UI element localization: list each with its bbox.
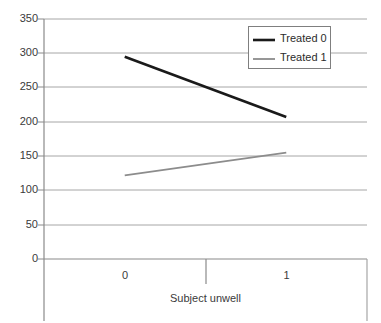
y-tick-label: 50: [2, 219, 38, 230]
legend-swatch-icon: [253, 30, 275, 48]
y-tick-250: 250: [0, 81, 38, 92]
y-tick-label: 150: [2, 150, 38, 161]
y-tick-label: 350: [2, 13, 38, 24]
y-tick-label: 0: [2, 253, 38, 264]
y-tick-200: 200: [0, 116, 38, 127]
y-tick-label: 200: [2, 116, 38, 127]
legend-item-treated-0: Treated 0: [253, 30, 327, 47]
y-tick-label: 300: [2, 47, 38, 58]
chart-legend: Treated 0 Treated 1: [248, 26, 331, 69]
y-tick-label: 250: [2, 81, 38, 92]
legend-label: Treated 0: [280, 33, 327, 44]
y-tick-marks: [38, 19, 44, 259]
x-tick-label-0: 0: [44, 270, 206, 281]
line-chart: 350 300 250 200 150 100 50 0 0 1 Subject…: [0, 0, 381, 323]
y-tick-150: 150: [0, 150, 38, 161]
x-axis-title: Subject unwell: [44, 292, 367, 304]
legend-label: Treated 1: [280, 52, 327, 63]
y-tick-300: 300: [0, 47, 38, 58]
x-tick-label-1: 1: [206, 270, 367, 281]
legend-swatch-icon: [253, 49, 275, 67]
y-tick-0: 0: [0, 253, 38, 264]
y-tick-label: 100: [2, 184, 38, 195]
y-tick-100: 100: [0, 184, 38, 195]
legend-item-treated-1: Treated 1: [253, 49, 327, 66]
y-tick-50: 50: [0, 219, 38, 230]
y-tick-350: 350: [0, 13, 38, 24]
